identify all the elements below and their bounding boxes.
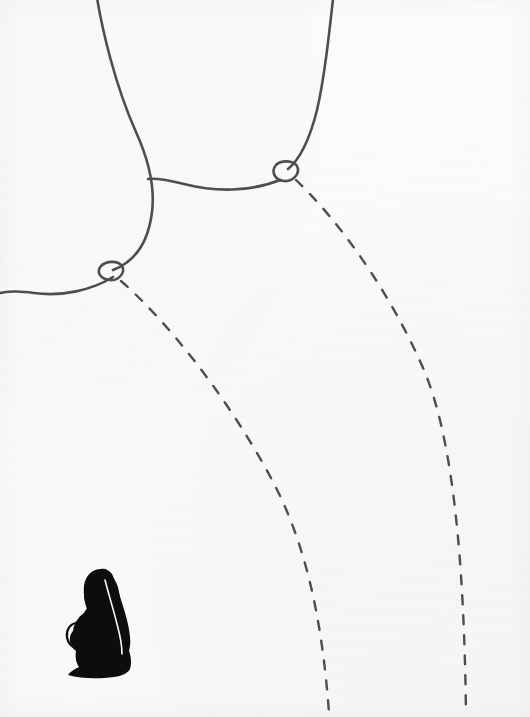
paper-background [0,0,530,717]
artwork-svg [0,0,530,717]
illustration-canvas: Girl with Two Balloons pen line drawing … [0,0,530,717]
